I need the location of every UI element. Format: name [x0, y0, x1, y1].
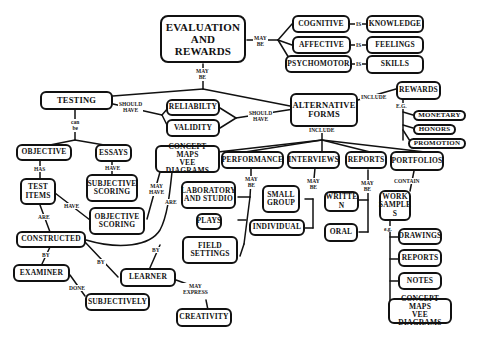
node-creativity: CREATIVITY — [176, 308, 232, 327]
node-ws-concept-maps: CONCEPT MAPS VEE DIAGRAMS — [388, 298, 452, 324]
node-portfolios: PORTFOLIOS — [390, 151, 444, 171]
node-interviews: INTERVIEWS — [287, 151, 340, 169]
link-label: IS — [355, 21, 362, 27]
link-label: MAY BE — [253, 35, 268, 48]
node-alternative-forms: ALTERNATIVE FORMS — [290, 93, 358, 127]
link-label: MAY EXPRESS — [182, 283, 209, 296]
node-honors: HONORS — [413, 124, 456, 135]
link-label: MAY HAVE — [148, 183, 165, 196]
node-monetary: MONETARY — [413, 110, 466, 121]
node-drawings: DRAWINGS — [398, 228, 442, 245]
node-feelings: FEELINGS — [366, 36, 424, 54]
link-label: BY — [96, 259, 106, 265]
link-label: DONE — [68, 285, 86, 291]
node-objective-scoring: OBJECTIVE SCORING — [89, 207, 145, 235]
link-label: E.G. — [395, 103, 408, 109]
node-small-group: SMALL GROUP — [262, 185, 300, 213]
link-label: can be — [70, 119, 80, 132]
link-label: ARE — [164, 199, 178, 205]
node-validity: VALIDITY — [166, 119, 220, 137]
node-test-items: TEST ITEMS — [20, 178, 56, 205]
node-rewards: REWARDS — [396, 81, 441, 100]
link-label: BY — [151, 247, 161, 253]
node-performance: PERFORMANCE — [221, 151, 284, 169]
node-subjectively: SUBJECTIVELY — [85, 293, 150, 311]
node-essays: ESSAYS — [95, 144, 132, 162]
link-label: ARE — [37, 214, 51, 220]
node-ws-reports: REPORTS — [398, 249, 442, 267]
link-label: MAY BE — [360, 180, 375, 193]
node-oral: ORAL — [324, 223, 358, 242]
node-subjective-scoring: SUBJECTIVE SCORING — [86, 174, 138, 202]
link-label: MAY BE — [306, 178, 321, 191]
link-label: HAVE — [63, 203, 80, 209]
node-reliability: RELIABILTY — [166, 99, 220, 116]
node-testing: TESTING — [40, 91, 113, 110]
link-label: INCLUDE — [360, 94, 387, 100]
link-label: MAY BE — [244, 176, 259, 189]
node-learner: LEARNER — [120, 268, 176, 287]
node-objective: OBJECTIVE — [16, 144, 72, 161]
node-constructed: CONSTRUCTED — [16, 231, 86, 248]
link-label: HAS — [33, 166, 46, 172]
node-evaluation-and-rewards: EVALUATION AND REWARDS — [160, 15, 246, 63]
link-label: INCLUDE — [308, 127, 335, 133]
node-examiner: EXAMINER — [13, 264, 70, 282]
link-label: BY — [41, 252, 51, 258]
node-psychomotor: PSYCHOMOTOR — [285, 55, 352, 73]
node-cognitive: COGNITIVE — [292, 15, 350, 33]
link-label: SHOULD HAVE — [118, 101, 143, 114]
link-label: IS — [355, 61, 362, 67]
link-label: HAVE — [104, 165, 121, 171]
node-affective: AFFECTIVE — [292, 36, 351, 54]
link-label: e.g. — [383, 226, 393, 232]
link-label: IS — [355, 42, 362, 48]
link-label: SHOULD HAVE — [248, 110, 273, 123]
node-written: WRITTE N — [324, 191, 359, 212]
node-concept-maps: CONCEPT MAPS VEE DIAGRAMS — [155, 145, 220, 173]
concept-map: MAY BE MAY BE IS IS IS SHOULD HAVE SHOUL… — [0, 0, 478, 341]
node-notes: NOTES — [398, 272, 442, 290]
node-field-settings: FIELD SETTINGS — [182, 236, 238, 264]
node-work-samples: WORK SAMPLE S — [379, 190, 411, 221]
link-label: CONTAIN — [393, 178, 421, 184]
node-plays: PLAYS — [196, 213, 222, 230]
node-reports: REPORTS — [345, 151, 387, 169]
link-label: MAY BE — [195, 68, 210, 81]
node-skills: SKILLS — [366, 55, 424, 74]
node-individual: INDIVIDUAL — [249, 219, 305, 236]
node-promotion: PROMOTION — [408, 138, 466, 149]
node-laboratory-and-studio: LABORATORY AND STUDIO — [181, 181, 236, 209]
node-knowledge: KNOWLEDGE — [366, 15, 424, 33]
